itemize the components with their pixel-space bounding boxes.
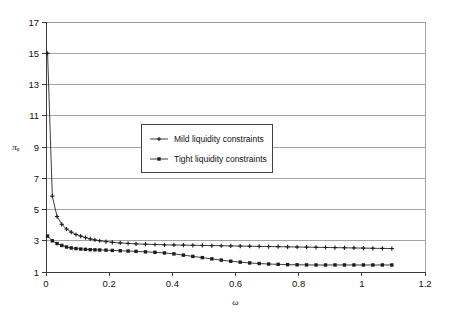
x-tick-label: 1 <box>359 278 364 289</box>
data-point <box>111 249 114 252</box>
data-point <box>201 256 204 259</box>
data-point <box>51 239 54 242</box>
x-tick-label: 1.2 <box>418 278 431 289</box>
data-point <box>134 250 137 253</box>
data-point <box>79 247 82 250</box>
data-point <box>60 244 63 247</box>
y-tick-label: 13 <box>28 79 39 90</box>
data-point <box>381 263 384 266</box>
data-point <box>229 260 232 263</box>
data-point <box>104 248 107 251</box>
x-tick-label: 0.8 <box>292 278 305 289</box>
data-point <box>257 262 260 265</box>
data-point <box>239 260 242 263</box>
data-point <box>172 252 175 255</box>
y-tick-label: 3 <box>34 235 39 246</box>
data-point <box>55 242 58 245</box>
x-tick-label: 0.6 <box>229 278 242 289</box>
data-point <box>314 263 317 266</box>
data-point <box>286 263 289 266</box>
data-point <box>220 258 223 261</box>
data-point <box>46 234 49 237</box>
y-tick-label: 17 <box>28 17 39 28</box>
data-point <box>74 247 77 250</box>
data-point <box>119 249 122 252</box>
data-point <box>210 257 213 260</box>
data-point <box>390 263 393 266</box>
y-tick-label: 1 <box>34 267 39 278</box>
data-point <box>371 263 374 266</box>
data-point <box>65 245 68 248</box>
y-tick-label: 15 <box>28 48 39 59</box>
data-point <box>153 251 156 254</box>
data-point <box>333 263 336 266</box>
data-point <box>276 263 279 266</box>
data-point <box>89 248 92 251</box>
data-point <box>362 263 365 266</box>
data-point <box>126 249 129 252</box>
legend-label: Tight liquidity constraints <box>174 154 267 164</box>
x-tick-label: 0 <box>43 278 48 289</box>
data-point <box>248 261 251 264</box>
data-point <box>295 263 298 266</box>
data-point <box>163 251 166 254</box>
data-point <box>144 250 147 253</box>
legend-box <box>141 124 272 172</box>
legend-label: Mild liquidity constraints <box>174 134 264 144</box>
data-point <box>324 263 327 266</box>
data-point <box>98 248 101 251</box>
y-tick-label: 7 <box>34 173 39 184</box>
y-tick-label: 9 <box>34 142 39 153</box>
data-point <box>352 263 355 266</box>
y-tick-label: 11 <box>29 110 39 121</box>
data-point <box>305 263 308 266</box>
data-point <box>182 253 185 256</box>
y-tick-label: 5 <box>34 204 39 215</box>
data-point <box>84 248 87 251</box>
y-axis-title: πᵩ <box>12 142 20 152</box>
data-point <box>267 262 270 265</box>
chart-container: 1357911131517 00.20.40.60.811.2 Mild liq… <box>0 0 469 321</box>
chart-legend: Mild liquidity constraintsTight liquidit… <box>141 124 272 172</box>
data-point <box>93 248 96 251</box>
data-point <box>191 255 194 258</box>
line-chart: 1357911131517 00.20.40.60.811.2 Mild liq… <box>0 0 469 321</box>
data-point <box>343 263 346 266</box>
x-tick-label: 0.2 <box>103 278 116 289</box>
x-tick-label: 0.4 <box>166 278 179 289</box>
data-point <box>70 246 73 249</box>
legend-marker <box>157 157 160 160</box>
x-axis-title: ω <box>232 297 238 307</box>
